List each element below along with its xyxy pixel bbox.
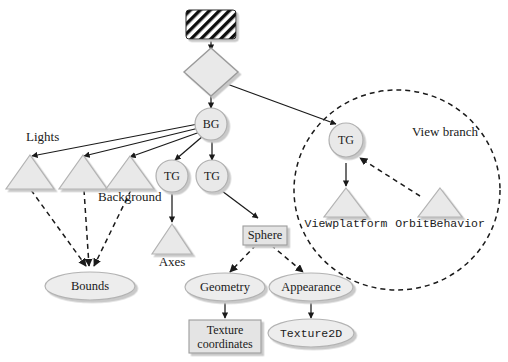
node-bg: BG [195,108,227,140]
view-branch-label: View branch [412,124,478,139]
appearance-label: Appearance [281,280,341,294]
node-texture-coordinates: Texture coordinates [189,320,261,353]
node-background [106,156,154,189]
background-label: Background [98,189,162,204]
edge-sphere-geometry [230,245,256,272]
node-bounds: Bounds [45,272,135,300]
geometry-label: Geometry [200,280,251,294]
texture-coordinates-label-line1: Texture [207,323,243,337]
node-light1 [6,155,54,189]
bounds-label: Bounds [71,279,109,293]
tg-left-label: TG [164,169,180,183]
light1-shape [6,155,54,189]
background-shape [106,156,154,189]
node-axes [152,224,192,254]
texture2d-label: Texture2D [280,327,342,340]
viewplatform-label: Viewplatform [305,217,388,230]
edge-bg-light2 [84,128,199,156]
diagram-canvas: BG TG TG TG [0,0,508,362]
node-orbitbehavior [418,188,462,217]
node-tg-view: TG [329,123,363,157]
texture-coordinates-label-line2: coordinates [197,337,253,351]
locale-shape [184,48,238,96]
axes-label: Axes [159,254,186,269]
light2-shape [59,155,107,189]
edge-light2-bounds [84,190,89,266]
node-sphere: Sphere [243,226,287,245]
sphere-label: Sphere [248,228,283,242]
node-appearance: Appearance [269,273,353,301]
edge-light1-bounds [31,190,86,266]
node-light2 [59,155,107,189]
node-tg-right: TG [196,160,228,192]
node-viewplatform [324,188,368,217]
viewplatform-shape [324,188,368,217]
edge-sphere-appearance [271,245,303,272]
edge-orbitbehavior-tgview [360,158,420,196]
edge-locale-tgview [227,84,336,124]
tg-view-label: TG [338,133,354,147]
lights-label: Lights [26,129,59,144]
scene-graph-diagram: BG TG TG TG [0,0,508,362]
node-tg-left: TG [156,160,188,192]
node-virtual-universe [186,10,236,39]
tg-right-label: TG [204,169,220,183]
axes-shape [152,224,192,254]
virtual-universe-shape [186,10,236,39]
orbitbehavior-label: OrbitBehavior [395,217,485,230]
edge-tgright-sphere [222,191,258,218]
orbitbehavior-shape [418,188,462,217]
node-texture2d: Texture2D [268,319,354,347]
bg-label: BG [203,117,220,131]
node-geometry: Geometry [185,273,265,301]
node-locale [184,48,238,96]
